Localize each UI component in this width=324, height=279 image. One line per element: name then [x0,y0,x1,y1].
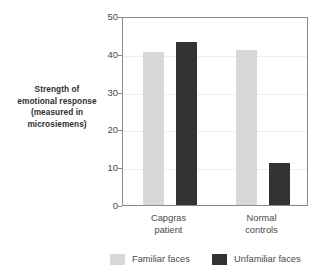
y-axis-tick-label: 30 [96,88,118,98]
legend-item[interactable]: Unfamiliar faces [212,252,301,266]
y-axis-title-line-4: microsiemens) [4,119,110,131]
bar-familiar-0 [143,52,164,205]
y-axis-tick-label: 50 [96,12,118,22]
legend-item[interactable]: Familiar faces [110,252,190,266]
y-axis-tick-label: 40 [96,50,118,60]
y-axis-tick-mark [118,206,122,207]
y-axis-title-line-3: (measured in [4,107,110,119]
bar-chart-figure: Strength of emotional response (measured… [0,0,324,279]
bar-unfamiliar-0 [176,42,197,205]
x-axis-category-label-line: patient [123,225,215,237]
bar-familiar-1 [236,50,257,205]
y-axis-title: Strength of emotional response (measured… [4,84,110,130]
legend-swatch-icon [212,254,227,265]
x-axis-category-label: Normalcontrols [216,213,308,237]
bar-unfamiliar-1 [269,163,290,205]
x-axis-category-label-line: Normal [216,213,308,225]
y-axis-tick-label: 0 [96,201,118,211]
x-axis-category-label-line: Capgras [123,213,215,225]
y-axis-tick-label: 10 [96,163,118,173]
x-axis-category-label-line: controls [216,225,308,237]
chart-legend: Familiar facesUnfamiliar faces [0,252,324,268]
x-axis-category-label: Capgraspatient [123,213,215,237]
y-axis-tick-label: 20 [96,125,118,135]
y-axis-title-line-2: emotional response [4,96,110,108]
legend-swatch-icon [110,254,125,265]
plot-area [122,17,308,206]
legend-label: Unfamiliar faces [234,254,301,265]
y-axis-title-line-1: Strength of [4,84,110,96]
legend-label: Familiar faces [132,254,190,265]
